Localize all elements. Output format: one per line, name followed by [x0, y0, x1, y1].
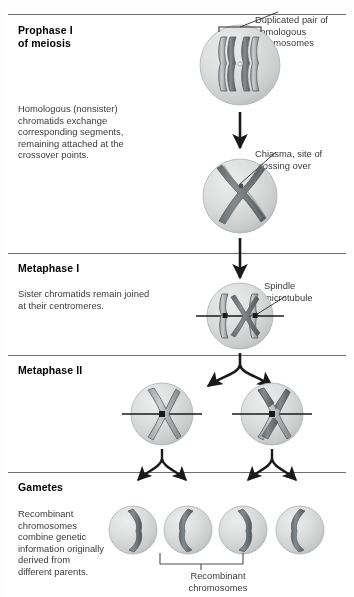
arrows-to-metaphase-2 — [208, 353, 272, 386]
caption-line: Recombinant — [163, 570, 273, 582]
callout-spindle-microtubule: Spindle microtubule — [264, 280, 354, 303]
body-line: at their centromeres. — [18, 300, 193, 312]
body-text-metaphase-1: Sister chromatids remain joined at their… — [18, 288, 193, 311]
centromere-dot — [159, 411, 165, 417]
centromere-dot — [223, 313, 228, 318]
gamete-cell-3 — [219, 506, 267, 554]
divider-metaphase-1 — [8, 253, 346, 254]
body-line: Homologous (nonsister) — [18, 103, 178, 115]
body-line: chromatids exchange — [18, 115, 178, 127]
caption-line: chromosomes — [163, 582, 273, 594]
chromosomes-metaphase-1 — [220, 294, 260, 338]
body-line: Sister chromatids remain joined — [18, 288, 193, 300]
stage-title-prophase-1: Prophase I of meiosis — [18, 24, 73, 49]
body-text-gametes: Recombinant chromosomes combine genetic … — [18, 508, 143, 578]
body-line: information originally — [18, 543, 143, 555]
stage-title-prophase-1-line1: Prophase I — [18, 24, 73, 37]
divider-metaphase-2 — [8, 355, 346, 356]
body-line: corresponding segments, — [18, 126, 178, 138]
cell-metaphase-2-left — [122, 383, 202, 445]
body-line: Recombinant — [18, 508, 143, 520]
gamete-cell-2 — [164, 506, 212, 554]
chromosomes-chiasma — [217, 165, 266, 224]
callout-line: crossing over — [255, 160, 354, 172]
centromere-dot — [253, 313, 258, 318]
centromere-dot — [269, 411, 275, 417]
callout-line: Duplicated pair of — [255, 14, 354, 26]
stage-title-gametes-line1: Gametes — [18, 481, 63, 494]
centromere-dot — [238, 62, 242, 66]
chiasma-point — [239, 184, 244, 189]
stage-title-metaphase-1: Metaphase I — [18, 262, 79, 275]
gamete-cell-4 — [276, 506, 324, 554]
body-line: different parents. — [18, 566, 143, 578]
stage-title-prophase-1-line2: of meiosis — [18, 37, 73, 50]
stage-title-metaphase-2: Metaphase II — [18, 364, 82, 377]
divider-gametes — [8, 472, 346, 473]
callout-duplicated-pair: Duplicated pair of homologous chromosome… — [255, 14, 354, 49]
callout-line: Chiasma, site of — [255, 148, 354, 160]
body-line: chromosomes — [18, 520, 143, 532]
callout-line: chromosomes — [255, 37, 354, 49]
arrows-to-gametes — [138, 449, 296, 480]
callout-chiasma: Chiasma, site of crossing over — [255, 148, 354, 171]
chromatids-prophase — [219, 37, 259, 91]
stage-title-gametes: Gametes — [18, 481, 63, 494]
body-line: combine genetic — [18, 531, 143, 543]
callout-line: homologous — [255, 26, 354, 38]
stage-title-metaphase-1-line1: Metaphase I — [18, 262, 79, 275]
caption-recombinant-chromosomes: Recombinant chromosomes — [163, 570, 273, 593]
body-line: remaining attached at the — [18, 138, 178, 150]
cell-metaphase-2-right — [232, 383, 312, 445]
body-text-prophase-1: Homologous (nonsister) chromatids exchan… — [18, 103, 178, 161]
callout-line: Spindle — [264, 280, 354, 292]
stage-title-metaphase-2-line1: Metaphase II — [18, 364, 82, 377]
body-line: crossover points. — [18, 149, 178, 161]
callout-line: microtubule — [264, 292, 354, 304]
body-line: derived from — [18, 554, 143, 566]
bracket-recombinant-chromosomes — [160, 553, 243, 570]
